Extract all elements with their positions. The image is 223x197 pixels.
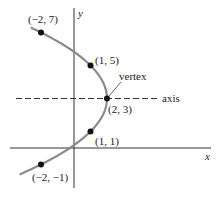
point-label-2-3: (2, 3) <box>108 103 132 116</box>
point-neg2-7 <box>38 30 44 36</box>
point-label-1-5: (1, 5) <box>95 54 119 67</box>
x-axis-label: x <box>204 150 210 162</box>
vertex-label: vertex <box>119 70 147 82</box>
point-label-1-1: (1, 1) <box>95 135 119 148</box>
y-axis-label: y <box>77 7 83 19</box>
point-label-neg2-7: (−2, 7) <box>28 13 58 26</box>
point-1-5 <box>88 63 94 69</box>
point-label-neg2-neg1: (−2, −1) <box>32 171 69 184</box>
axis-label: axis <box>162 92 180 104</box>
parabola-curve <box>20 28 107 175</box>
point-1-1 <box>88 129 94 135</box>
parabola-chart: x y axis vertex (−2, 7) (1, 5) (2, 3) (1… <box>0 0 223 197</box>
point-neg2-neg1 <box>38 162 44 168</box>
vertex-pointer-line <box>109 82 121 96</box>
point-vertex-2-3 <box>104 96 110 102</box>
